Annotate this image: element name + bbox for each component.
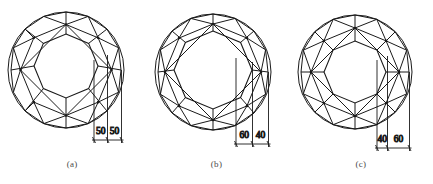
- table-octagon: [34, 34, 98, 98]
- figure-panel-c: 40 60 (c): [289, 0, 433, 184]
- dimension-label-b-2: 40: [256, 130, 266, 140]
- caption-a: (a): [0, 158, 144, 170]
- vertex-dots: [164, 23, 263, 122]
- gem-diagram-a: 50 50: [0, 0, 144, 156]
- gem-diagram-c: 40 60: [289, 0, 433, 156]
- dimension-label-c-2: 60: [393, 134, 403, 144]
- figure-panel-a: 50 50 (a): [0, 0, 144, 184]
- radial-spokes: [11, 12, 121, 128]
- dimension-label-c-1: 40: [377, 134, 387, 144]
- caption-c: (c): [289, 158, 433, 170]
- figure-panel-b: 60 40 (b): [144, 0, 288, 184]
- figure-row: 50 50 (a): [0, 0, 433, 184]
- dimension-label-b-1: 60: [240, 130, 250, 140]
- dimension-label-a-2: 50: [110, 126, 120, 136]
- gem-diagram-b: 60 40: [144, 0, 288, 156]
- radial-spokes: [301, 15, 409, 129]
- dimension-label-a-1: 50: [96, 126, 106, 136]
- caption-b: (b): [144, 158, 288, 170]
- table-octagon: [174, 31, 252, 109]
